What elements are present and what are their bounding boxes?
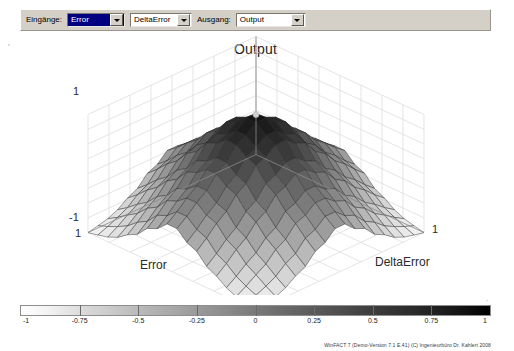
input2-select[interactable]: DeltaError	[130, 13, 192, 27]
colorbar: -1-0.75-0.5-0.2500.250.50.751	[20, 305, 491, 329]
scan-speck	[486, 300, 488, 301]
output-value: Output	[237, 14, 291, 26]
colorbar-tick	[314, 305, 315, 316]
x-axis-title: Error	[140, 258, 167, 272]
chevron-down-icon[interactable]	[177, 14, 190, 26]
surface-peak-marker	[253, 112, 259, 118]
chevron-down-icon[interactable]	[291, 14, 304, 26]
output-select[interactable]: Output	[236, 13, 306, 27]
colorbar-tick-label: -1	[23, 317, 29, 324]
colorbar-tick-label: 0.25	[307, 317, 321, 324]
colorbar-tick-label: 1	[483, 317, 487, 324]
colorbar-tick-label: 0	[254, 317, 258, 324]
output-label: Ausgang:	[197, 15, 231, 25]
scan-speck	[8, 44, 10, 46]
toolbar: Eingänge: Error DeltaError Ausgang: Outp…	[20, 9, 491, 31]
inputs-label: Eingänge:	[26, 15, 62, 25]
colorbar-tick	[256, 305, 257, 316]
colorbar-tick-label: 0.75	[425, 317, 439, 324]
colorbar-tick-labels: -1-0.75-0.5-0.2500.250.50.751	[20, 317, 491, 328]
colorbar-tick	[80, 305, 81, 316]
colorbar-tick-label: -0.75	[72, 317, 88, 324]
z-axis-max-label: 1	[73, 85, 79, 97]
colorbar-tick	[138, 305, 139, 316]
colorbar-tick	[197, 305, 198, 316]
colorbar-ticks	[20, 305, 491, 316]
colorbar-tick	[431, 305, 432, 316]
footer-text: WinFACT 7 (Demo-Version 7.1 E.41) (C) In…	[324, 342, 491, 348]
colorbar-tick	[373, 305, 374, 316]
input1-value: Error	[68, 14, 110, 26]
y-axis-title: DeltaError	[375, 255, 430, 269]
chevron-down-icon[interactable]	[110, 14, 123, 26]
surface-plot[interactable]: Output 1 -1 1 1 Error DeltaError	[20, 33, 491, 295]
colorbar-tick-label: -0.5	[132, 317, 144, 324]
colorbar-tick-label: -0.25	[189, 317, 205, 324]
fuzzy-surface-viewer: Eingänge: Error DeltaError Ausgang: Outp…	[0, 0, 514, 351]
colorbar-tick-label: 0.5	[368, 317, 378, 324]
x-axis-near-label: 1	[75, 227, 81, 239]
footer: WinFACT 7 (Demo-Version 7.1 E.41) (C) In…	[20, 333, 491, 343]
z-axis-min-label: -1	[69, 211, 79, 223]
input2-value: DeltaError	[131, 14, 177, 26]
y-axis-near-label: 1	[432, 223, 438, 235]
input1-select[interactable]: Error	[67, 13, 125, 27]
